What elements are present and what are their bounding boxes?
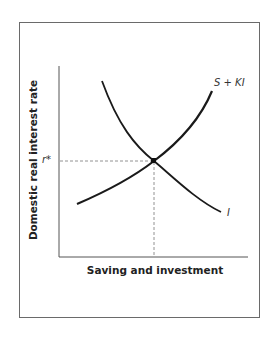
chart-plot	[0, 0, 273, 340]
y-axis-label: Domestic real interest rate	[27, 80, 39, 240]
investment-curve	[102, 81, 221, 212]
equilibrium-point	[151, 158, 156, 163]
x-axis-label: Saving and investment	[87, 264, 223, 276]
saving-plus-ki-curve	[77, 91, 212, 204]
r-star-label: r*	[42, 154, 51, 165]
investment-label: I	[227, 207, 230, 218]
saving-plus-ki-label: S + KI	[214, 77, 245, 88]
